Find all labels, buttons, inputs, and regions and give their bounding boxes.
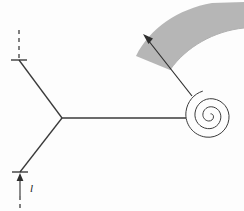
dimension-arrowhead-up-icon — [17, 173, 24, 181]
lower-left-arm — [20, 118, 62, 172]
archimedean-spiral — [186, 91, 229, 137]
length-label: l — [30, 182, 33, 194]
upper-left-arm — [19, 60, 62, 118]
figure-canvas: l — [0, 0, 244, 211]
shaded-arc-band — [136, 2, 244, 70]
diagram-svg: l — [0, 0, 244, 211]
